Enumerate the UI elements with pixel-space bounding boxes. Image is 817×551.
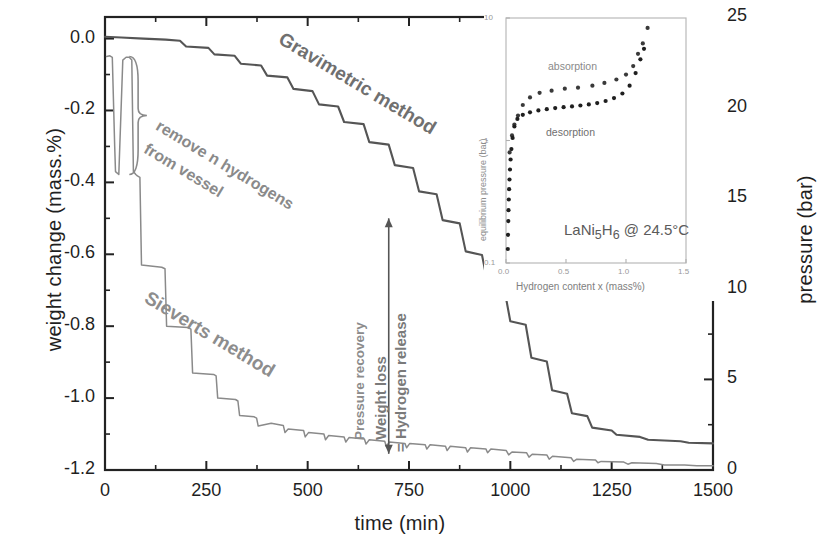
inset-series-label-desorption: desorption xyxy=(546,126,595,138)
inset-point-desorption xyxy=(515,117,519,121)
inset-series-label-absorption: absorption xyxy=(548,60,597,72)
inset-point-absorption xyxy=(602,81,606,85)
inset-point-desorption xyxy=(612,96,616,100)
inset-point-absorption xyxy=(624,73,628,77)
inset-point-desorption xyxy=(508,167,512,171)
inset-y-axis-title: equilibrium pressure (bar) xyxy=(478,138,488,241)
inset-point-desorption xyxy=(506,208,510,212)
inset-point-desorption xyxy=(509,157,513,161)
inset-point-desorption xyxy=(507,197,511,201)
inset-point-desorption xyxy=(638,57,642,61)
inset-point-absorption xyxy=(563,87,567,91)
inset-point-desorption xyxy=(510,136,514,140)
inset-x-tick-label: 1.0 xyxy=(618,267,629,276)
inset-point-absorption xyxy=(576,86,580,90)
inset-point-desorption xyxy=(620,91,624,95)
inset-point-desorption xyxy=(528,110,532,114)
inset-point-desorption xyxy=(587,102,591,106)
inset-point-desorption xyxy=(506,233,510,237)
inset-point-desorption xyxy=(506,219,510,223)
inset-background xyxy=(484,4,724,301)
inset-sample-label: LaNi5H6 @ 24.5°C xyxy=(564,221,689,242)
inset-point-absorption xyxy=(641,41,645,45)
sample-condition: @ 24.5°C xyxy=(620,221,690,238)
inset-x-tick-label: 0.0 xyxy=(498,267,509,276)
inset-point-desorption xyxy=(507,187,511,191)
inset-x-tick-label: 1.5 xyxy=(678,267,689,276)
inset-point-absorption xyxy=(631,64,635,68)
inset-point-absorption xyxy=(646,26,650,30)
inset-point-desorption xyxy=(536,108,540,112)
inset-point-desorption xyxy=(545,107,549,111)
inset-point-absorption xyxy=(550,89,554,93)
sample-name: LaNi xyxy=(564,221,595,238)
inset-point-absorption xyxy=(528,95,532,99)
inset-point-desorption xyxy=(628,84,632,88)
inset-point-desorption xyxy=(521,113,525,117)
inset-point-absorption xyxy=(538,91,542,95)
inset-y-tick-label: 10 xyxy=(484,13,493,22)
inset-y-tick-label: 0.1 xyxy=(484,258,495,267)
inset-point-desorption xyxy=(562,105,566,109)
inset-point-absorption xyxy=(590,84,594,88)
inset-point-absorption xyxy=(521,103,525,107)
inset-point-desorption xyxy=(578,103,582,107)
inset-x-tick-label: 0.5 xyxy=(558,267,569,276)
sample-sub-1: 5 xyxy=(595,228,602,242)
inset-point-desorption xyxy=(553,106,557,110)
inset-point-desorption xyxy=(509,147,513,151)
inset-point-desorption xyxy=(642,47,646,51)
inset-point-desorption xyxy=(595,101,599,105)
sample-sub-2: 6 xyxy=(613,228,620,242)
inset-point-desorption xyxy=(604,99,608,103)
inset-point-desorption xyxy=(634,71,638,75)
inset-point-absorption xyxy=(636,52,640,56)
inset-point-desorption xyxy=(512,124,516,128)
inset-point-desorption xyxy=(506,247,510,251)
inset-point-desorption xyxy=(570,104,574,108)
sample-name-2: H xyxy=(602,221,613,238)
inset-x-axis-title: Hydrogen content x (mass%) xyxy=(516,281,645,292)
inset-point-absorption xyxy=(614,77,618,81)
inset-point-desorption xyxy=(507,177,511,181)
